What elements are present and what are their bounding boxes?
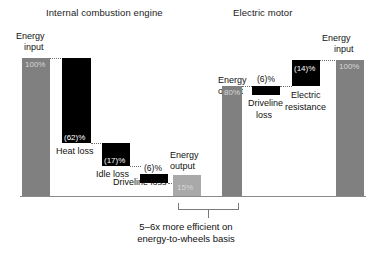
comparison-footnote: 5–6x more efficient on energy-to-wheels … (0, 221, 372, 245)
comparison-footnote-line1: 5–6x more efficient on (0, 221, 372, 233)
ev-bar-electric-resistance-caption-line1: Electric (291, 90, 321, 101)
ev-bar-energy-output (222, 86, 242, 196)
connector-ev-driveline-to-resistance (280, 86, 292, 87)
ice-energy-output-caption-line1: Energy (170, 150, 199, 161)
ice-bar-energy-input-value: 100% (25, 60, 45, 69)
ev-energy-output-caption-line1: Energy (218, 75, 247, 86)
ice-energy-output-caption-line2: output (170, 161, 195, 172)
ev-bar-energy-output-value: 80% (224, 88, 240, 97)
ice-bar-heat-loss-caption: Heat loss (56, 146, 94, 157)
ev-bar-driveline-loss-caption-line1: Driveline (248, 98, 283, 109)
panel-title-ice: Internal combustion engine (46, 7, 163, 18)
ev-bar-energy-input-value: 100% (339, 62, 359, 71)
connector-idle-to-driveline (130, 166, 141, 167)
ice-bar-heat-loss (62, 58, 91, 143)
ice-bar-driveline-loss-value: (6)% (144, 163, 162, 173)
ev-energy-input-caption-line1: Energy (322, 33, 351, 44)
ice-bar-energy-input (22, 58, 50, 196)
figure-canvas: Internal combustion engine Electric moto… (0, 0, 372, 255)
bracket-stem (208, 209, 209, 218)
ev-bar-energy-input (336, 60, 364, 196)
panel-title-ev: Electric motor (233, 7, 292, 18)
ev-bar-electric-resistance-caption-line2: resistance (285, 102, 326, 113)
ice-bar-energy-output-value: 15% (177, 183, 193, 192)
chart-baseline (20, 196, 366, 197)
ice-bar-heat-loss-value: (62)% (64, 133, 85, 142)
ev-bar-driveline-loss-caption-line2: loss (256, 110, 272, 121)
bracket-right-tick (238, 203, 239, 209)
ev-energy-input-caption-line2: input (334, 44, 354, 55)
comparison-footnote-line2: energy-to-wheels basis (0, 233, 372, 245)
ev-bar-driveline-loss-value: (6)% (257, 74, 275, 84)
ev-bar-electric-resistance-value: (14)% (294, 64, 315, 73)
ice-energy-input-caption-line1: Energy (16, 31, 45, 42)
ice-energy-input-caption-line2: input (24, 42, 44, 53)
connector-ev-resistance-to-input (320, 60, 337, 61)
ice-bar-driveline-loss-caption: Driveline loss (113, 177, 167, 188)
ice-bar-idle-loss-value: (17)% (104, 156, 125, 165)
ev-bar-driveline-loss (252, 86, 280, 95)
